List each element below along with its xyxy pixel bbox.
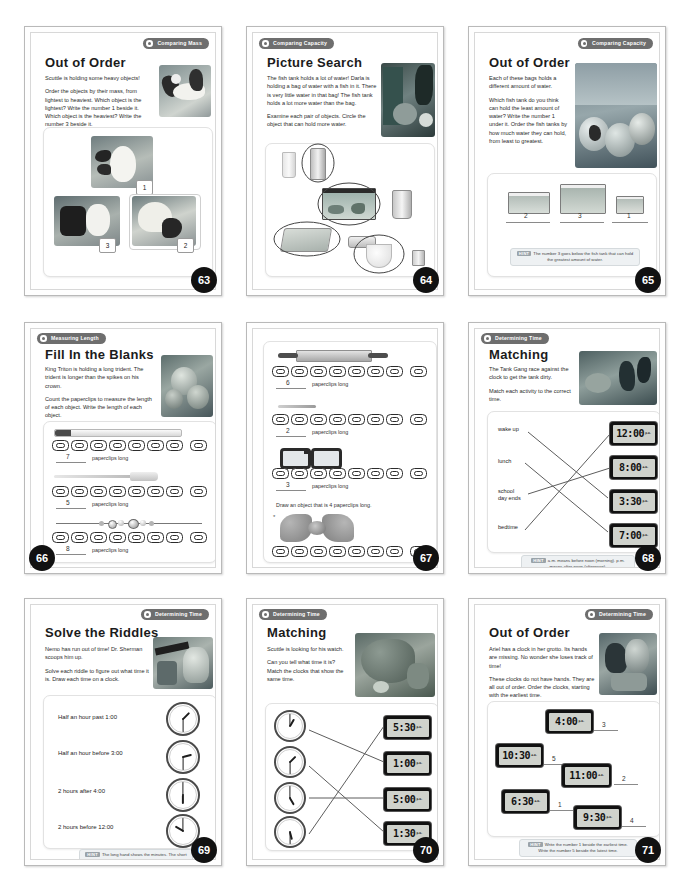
answer-value-2[interactable]: 3	[578, 212, 582, 219]
category-badge: Determining Time	[141, 609, 209, 620]
answer-line-1	[276, 388, 306, 389]
analog-clock-3[interactable]	[166, 778, 200, 812]
clock-time-4: 1:30	[393, 828, 415, 839]
worksheet-page-63[interactable]: Comparing Mass Out of Order Scuttle is h…	[24, 26, 222, 296]
answer-value-3[interactable]: 2	[622, 775, 626, 782]
page-title: Matching	[489, 347, 548, 362]
pitcher-image	[392, 190, 412, 219]
category-badge: Determining Time	[259, 609, 327, 620]
answer-panel: 1 3 2	[43, 127, 213, 277]
worksheet-page-65[interactable]: Comparing Capacity Out of Order Each of …	[468, 26, 666, 296]
page-number: 67	[413, 545, 439, 571]
circle-icon	[588, 611, 595, 618]
circle-icon	[144, 611, 151, 618]
fish-tank-photo	[381, 63, 435, 137]
page-number: 68	[635, 545, 661, 571]
digital-clock-5[interactable]: 9:30p.m.	[574, 806, 621, 829]
category-label: Determining Time	[273, 611, 320, 617]
tank-image-1	[508, 192, 550, 214]
digital-clock-1[interactable]: 12:00p.m.	[610, 422, 657, 445]
circle-answer-3	[272, 220, 342, 258]
answer-value-2[interactable]: 5	[552, 755, 556, 762]
stick-image	[278, 405, 316, 408]
riddle-panel: Half an hour past 1:00 Half an hour befo…	[43, 695, 216, 849]
clock-time-1: 4:00	[555, 716, 577, 727]
page-title: Matching	[267, 625, 326, 640]
answer-value-3[interactable]: 3	[286, 481, 290, 488]
circle-icon	[484, 335, 491, 342]
clock-time-5: 9:30	[583, 812, 605, 823]
answer-box-3[interactable]: 2	[177, 238, 194, 253]
instruction-line-2: Order the objects by their mass, from li…	[45, 87, 153, 128]
bullet-icon: *	[273, 514, 275, 520]
matching-panel: wake up lunch school day ends bedtime 12…	[487, 411, 660, 553]
answer-value-2[interactable]: 5	[66, 499, 70, 506]
clock-meridiem-3: p.m.	[416, 798, 422, 801]
category-badge: Determining Time	[481, 333, 549, 344]
digital-clock-3[interactable]: 11:00a.m.	[562, 764, 611, 787]
page-title: Picture Search	[267, 55, 362, 70]
worksheet-page-66[interactable]: Measuring Length Fill In the Blanks King…	[24, 322, 222, 574]
instruction-line-2: These clocks do not have hands. They are…	[489, 675, 595, 700]
digital-clock-2[interactable]: 8:00a.m.	[610, 456, 657, 479]
hint-text: The long hand shows the minutes. The sho…	[102, 852, 187, 860]
answer-value-1[interactable]: 6	[286, 379, 290, 386]
digital-clock-2[interactable]: 1:00p.m.	[384, 752, 431, 775]
instruction-line-1: King Triton is holding a long trident. T…	[45, 365, 155, 390]
answer-value-3[interactable]: 8	[66, 545, 70, 552]
category-badge: Determining Time	[585, 609, 653, 620]
clock-meridiem-5: p.m.	[606, 816, 612, 819]
page-title: Solve the Riddles	[45, 625, 158, 640]
answer-value-1[interactable]: 2	[524, 212, 528, 219]
digital-clock-4[interactable]: 7:00p.m.	[610, 524, 657, 547]
digital-clock-4[interactable]: 6:30a.m.	[502, 790, 549, 813]
answer-value-5[interactable]: 4	[630, 817, 634, 824]
instruction-line-1: Nemo has run out of time! Dr. Sherman sc…	[45, 645, 149, 662]
digital-clock-2[interactable]: 10:30a.m.	[496, 744, 543, 767]
digital-clock-1[interactable]: 4:00p.m.	[546, 710, 593, 733]
answer-value-1[interactable]: 7	[66, 453, 70, 460]
small-cup-image	[412, 250, 425, 266]
digital-clock-3[interactable]: 3:30p.m.	[610, 490, 657, 513]
answer-panel: 7 paperclips long 5 paperclips long	[43, 421, 216, 563]
instruction-line-2: Count the paperclips to measure the leng…	[45, 395, 155, 420]
clock-time-4: 6:30	[511, 796, 533, 807]
instruction-line-1: The Tank Gang race against the clock to …	[489, 365, 575, 382]
glasses-image	[280, 446, 336, 464]
clock-meridiem-4: p.m.	[642, 534, 648, 537]
circle-answer-1	[300, 142, 336, 184]
worksheet-page-71[interactable]: Determining Time Out of Order Ariel has …	[468, 598, 666, 866]
category-label: Determining Time	[155, 611, 202, 617]
tank-image-2	[560, 184, 606, 214]
worksheet-page-69[interactable]: Determining Time Solve the Riddles Nemo …	[24, 598, 222, 866]
analog-clock-1[interactable]	[166, 702, 200, 736]
answer-line-3	[56, 554, 86, 555]
category-badge: Comparing Mass	[143, 38, 209, 49]
page-inner: Comparing Mass Out of Order Scuttle is h…	[30, 32, 216, 290]
answer-value-4[interactable]: 1	[558, 801, 562, 808]
answer-box-1[interactable]: 1	[136, 180, 153, 195]
worksheet-page-68[interactable]: Determining Time Matching The Tank Gang …	[468, 322, 666, 574]
category-badge: Comparing Capacity	[259, 38, 334, 49]
answer-value-2[interactable]: 2	[286, 427, 290, 434]
analog-clock-2[interactable]	[166, 740, 200, 774]
category-label: Comparing Mass	[157, 40, 202, 46]
worksheet-page-64[interactable]: Comparing Capacity Picture Search The fi…	[246, 26, 444, 296]
instructions: Each of these bags holds a different amo…	[489, 74, 569, 150]
worksheet-page-70[interactable]: Determining Time Matching Scuttle is loo…	[246, 598, 444, 866]
category-label: Determining Time	[495, 335, 542, 341]
digital-clock-3[interactable]: 5:00p.m.	[384, 788, 431, 811]
paperclip-row-2	[272, 414, 428, 423]
answer-value-3[interactable]: 1	[627, 212, 631, 219]
circle-icon	[262, 611, 269, 618]
worksheet-page-67[interactable]: 6 paperclips long 2 paperclips long	[246, 322, 444, 574]
circle-icon	[262, 40, 269, 47]
digital-clock-1[interactable]: 5:30p.m.	[384, 716, 431, 739]
answer-value-1[interactable]: 3	[602, 721, 606, 728]
category-badge: Comparing Capacity	[578, 38, 653, 49]
circle-icon	[40, 335, 47, 342]
answer-box-2[interactable]: 3	[99, 238, 116, 253]
instructions: Nemo has run out of time! Dr. Sherman sc…	[45, 645, 149, 688]
scuttle-photo	[159, 65, 211, 117]
answer-line-3	[612, 222, 648, 223]
